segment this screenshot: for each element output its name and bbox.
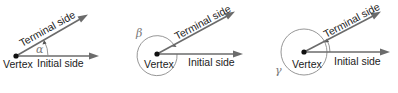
- terminal-side-label: Terminal side: [321, 0, 381, 40]
- angle-gamma: γ Vertex Initial side Terminal side: [275, 0, 390, 77]
- diagram-canvas: α Vertex Initial side Terminal side β Ve…: [0, 0, 398, 93]
- arrowhead-icon: [78, 15, 89, 23]
- angle-symbol: α: [36, 43, 44, 56]
- vertex-label: Vertex: [3, 58, 34, 70]
- initial-side-label: Initial side: [37, 57, 84, 69]
- angle-diagrams: α Vertex Initial side Terminal side β Ve…: [0, 0, 398, 93]
- terminal-side-label: Terminal side: [17, 8, 77, 49]
- vertex-point: [301, 49, 306, 54]
- vertex-point: [154, 51, 159, 56]
- angle-symbol: γ: [275, 64, 282, 77]
- initial-side-label: Initial side: [334, 55, 381, 67]
- angle-beta: β Vertex Initial side Terminal side: [135, 2, 243, 76]
- angle-symbol: β: [135, 27, 142, 40]
- initial-side-label: Initial side: [188, 56, 235, 68]
- terminal-side-label: Terminal side: [172, 2, 232, 42]
- vertex-label: Vertex: [292, 58, 323, 70]
- arrowhead-icon: [380, 49, 390, 56]
- vertex-label: Vertex: [144, 58, 175, 70]
- arrowhead-icon: [89, 53, 99, 60]
- angle-alpha: α Vertex Initial side Terminal side: [3, 8, 99, 70]
